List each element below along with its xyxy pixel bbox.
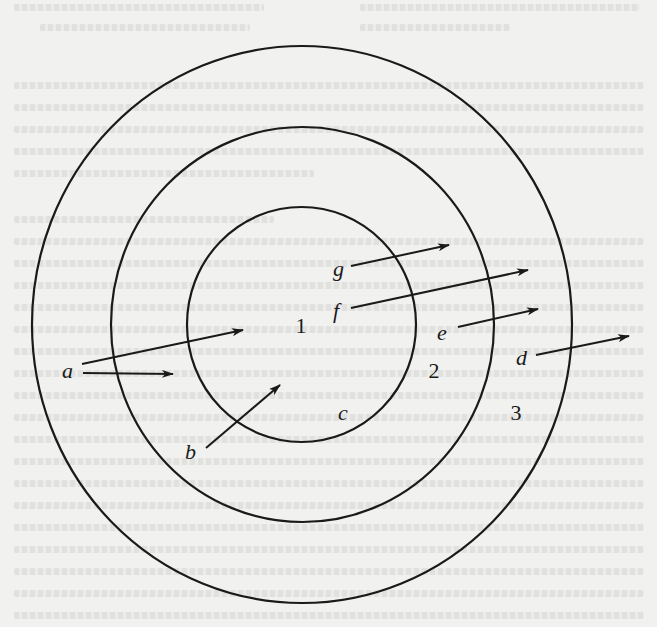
trajectory-arrows xyxy=(82,245,629,448)
arrow-d-icon xyxy=(536,336,629,355)
region-3-label: 3 xyxy=(511,400,522,425)
arrow-e-icon xyxy=(458,309,538,327)
label-f: f xyxy=(333,298,342,323)
label-g: g xyxy=(333,256,344,281)
region-1-label: 1 xyxy=(296,313,307,338)
diagram-labels: abcdefg123 xyxy=(62,256,528,464)
arrow-a-upper-icon xyxy=(82,330,243,364)
label-e: e xyxy=(437,320,447,345)
scanned-page: abcdefg123 xyxy=(0,0,657,627)
arrow-b-icon xyxy=(206,385,280,448)
label-c: c xyxy=(338,400,348,425)
concentric-regions-diagram: abcdefg123 xyxy=(0,0,657,627)
label-d: d xyxy=(516,345,528,370)
arrow-f-icon xyxy=(351,270,528,308)
arrow-a-lower-icon xyxy=(83,373,173,374)
label-a: a xyxy=(62,358,73,383)
region-2-label: 2 xyxy=(429,358,440,383)
label-b: b xyxy=(185,439,196,464)
